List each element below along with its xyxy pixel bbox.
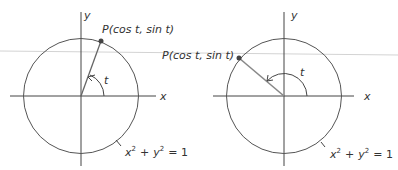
- right-y-label: y: [290, 9, 298, 22]
- right-point-p: [237, 56, 242, 61]
- left-unit-circle-figure: P(cos t, sin t) t x y x2+y2= 1: [10, 9, 188, 166]
- right-point-label: P(cos t, sin t): [162, 49, 234, 62]
- left-angle-label: t: [104, 74, 109, 87]
- left-point-label: P(cos t, sin t): [102, 23, 174, 36]
- unit-circle-diagram: P(cos t, sin t) t x y x2+y2= 1 P(cos t, …: [0, 0, 398, 170]
- left-arc-arrow-icon: [88, 75, 95, 81]
- left-angle-arc: [90, 75, 104, 96]
- left-radius: [81, 41, 101, 96]
- right-radius: [239, 58, 284, 96]
- right-equation: x2+y2= 1: [329, 147, 393, 161]
- left-point-p: [99, 39, 104, 44]
- left-equation-leader: [116, 140, 121, 146]
- right-equation-leader: [321, 142, 325, 147]
- right-unit-circle-figure: P(cos t, sin t) t x y x2+y2= 1: [162, 9, 393, 166]
- right-angle-label: t: [300, 66, 305, 79]
- right-x-label: x: [363, 90, 371, 103]
- left-equation: x2+y2= 1: [124, 145, 188, 159]
- left-x-label: x: [159, 90, 167, 103]
- left-y-label: y: [83, 9, 91, 22]
